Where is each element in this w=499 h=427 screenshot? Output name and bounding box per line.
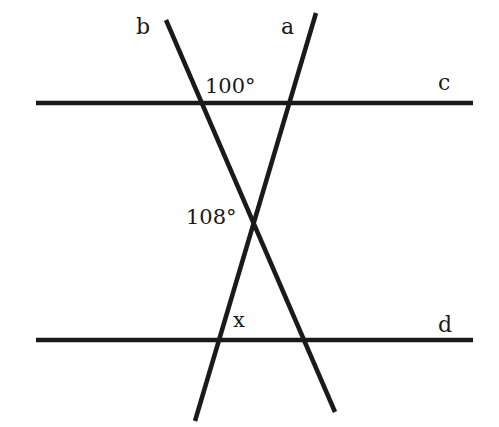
label-a: a xyxy=(281,14,294,39)
angle-label-108: 108° xyxy=(186,205,237,229)
angle-label-x: x xyxy=(233,308,245,332)
angle-label-100: 100° xyxy=(205,74,256,98)
label-c: c xyxy=(438,70,450,95)
label-d: d xyxy=(438,312,452,337)
label-b: b xyxy=(136,14,150,39)
geometry-diagram: b a c d 100° 108° x xyxy=(0,0,499,427)
